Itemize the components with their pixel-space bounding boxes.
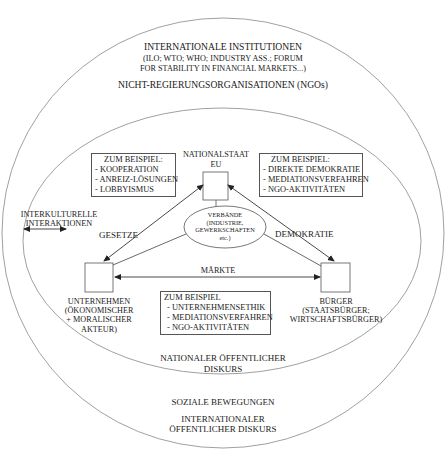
intl-discourse-label-1: INTERNATIONALER: [0, 414, 446, 424]
associations-line-3: GEWERKSCHAFTEN: [185, 226, 265, 234]
intercultural-label-1: INTERKULTURELLE: [14, 210, 104, 219]
citizen-node-box: [321, 263, 350, 292]
example-box-right-item: - MEDIATIONSVERFAHREN: [263, 175, 359, 185]
intl-institutions-subtitle-2: FOR STABILITY IN FINANCIAL MARKETS...): [0, 64, 446, 73]
example-box-right-item: - NGO-AKTIVITÄTEN: [263, 185, 359, 195]
state-node-label-2: EU: [166, 160, 266, 169]
social-movements-label: SOZIALE BEWEGUNGEN: [0, 397, 446, 407]
intl-institutions-subtitle-1: (ILO; WTO; WHO; INDUSTRY ASS.; FORUM: [0, 54, 446, 63]
ngo-label: NICHT-REGIERUNGSORGANISATIONEN (NGOs): [0, 80, 446, 91]
example-box-left-item: - ANREIZ-LÖSUNGEN: [95, 175, 172, 185]
example-box-bottom-item: - NGO-AKTIVITÄTEN: [164, 323, 267, 333]
associations-line-1: VERBÄNDE: [185, 211, 265, 219]
company-line-1: UNTERNEHMEN: [52, 297, 146, 306]
associations-line-4: etc.): [185, 234, 265, 242]
edge-label-laws: GESETZE: [99, 230, 138, 240]
example-box-left: ZUM BEISPIEL: - KOOPERATION - ANREIZ-LÖS…: [91, 153, 176, 197]
example-box-bottom: ZUM BEISPIEL - UNTERNEHMENSETHIK - MEDIA…: [160, 291, 271, 335]
example-box-bottom-heading: ZUM BEISPIEL: [164, 293, 267, 303]
example-box-bottom-item: - MEDIATIONSVERFAHREN: [164, 313, 267, 323]
example-box-right: ZUM BEISPIEL: - DIREKTE DEMOKRATIE - MED…: [259, 153, 363, 197]
company-line-3: + MORALISCHER: [52, 315, 146, 324]
intl-discourse-label-2: ÖFFENTLICHER DISKURS: [0, 424, 446, 434]
citizen-node-label: BÜRGER (STAATSBÜRGER; WIRTSCHAFTSBÜRGER): [286, 297, 386, 325]
citizen-line-1: BÜRGER: [286, 297, 386, 306]
example-box-left-item: - KOOPERATION: [95, 165, 172, 175]
national-discourse-label-1: NATIONALER ÖFFENTLICHER: [0, 353, 446, 363]
associations-line-2: (INDUSTRIE,: [185, 219, 265, 227]
associations-label: VERBÄNDE (INDUSTRIE, GEWERKSCHAFTEN etc.…: [185, 211, 265, 241]
national-discourse-label-2: DISKURS: [0, 364, 446, 374]
example-box-right-item: - DIREKTE DEMOKRATIE: [263, 165, 359, 175]
intl-institutions-title: INTERNATIONALE INSTITUTIONEN: [0, 42, 446, 53]
edge-label-democracy: DEMOKRATIE: [275, 229, 334, 239]
example-box-left-item: - LOBBYISMUS: [95, 185, 172, 195]
example-box-left-heading: ZUM BEISPIEL:: [95, 155, 172, 165]
company-node-box: [85, 263, 113, 292]
intercultural-label-2: INTERAKTIONEN: [14, 219, 104, 228]
citizen-line-3: WIRTSCHAFTSBÜRGER): [286, 315, 386, 324]
example-box-bottom-item: - UNTERNEHMENSETHIK: [164, 303, 267, 313]
company-line-4: AKTEUR): [52, 325, 146, 334]
citizen-line-2: (STAATSBÜRGER;: [286, 306, 386, 315]
example-box-right-heading: ZUM BEISPIEL:: [263, 155, 359, 165]
edge-label-markets: MÄRKTE: [178, 266, 258, 275]
state-node-label-1: NATIONALSTAAT: [166, 150, 266, 159]
company-line-2: (ÖKONOMISCHER: [52, 306, 146, 315]
state-node-box: [203, 172, 228, 200]
company-node-label: UNTERNEHMEN (ÖKONOMISCHER + MORALISCHER …: [52, 297, 146, 334]
